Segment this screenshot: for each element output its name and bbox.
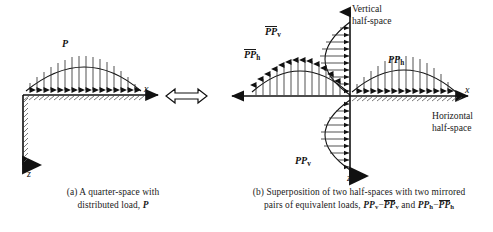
caption-a: (a) A quarter-space with distributed loa… (8, 186, 218, 211)
caption-b: (b) Superposition of two half-spaces wit… (228, 186, 490, 213)
panel-b-label-ppbar-v: PPv (265, 26, 281, 39)
panel-b-vertical-halfspace-label: Vertical half-space (352, 3, 391, 27)
panel-b-diagram (250, 12, 468, 176)
caption-a-line1: (a) A quarter-space with (8, 186, 218, 199)
panel-b-load-envelope-right-horizontal (352, 70, 456, 92)
panel-a-top-hatching (24, 96, 144, 100)
panel-b-load-envelope-left-horizontal (252, 71, 348, 92)
panel-b-label-pp-v: PPv (295, 155, 311, 168)
panel-b-right-hatching (352, 97, 462, 101)
panel-a-load-label: P (62, 38, 68, 49)
panel-b-label-pp-h: PPh (388, 54, 404, 67)
panel-b-load-envelope-lower-vertical (325, 100, 350, 170)
panel-a-z-axis-label: z (27, 168, 31, 179)
caption-b-line2: pairs of equivalent loads, PPv−PPv and P… (228, 199, 490, 214)
panel-b-horizontal-halfspace-label: Horizontal half-space (432, 110, 473, 134)
panel-a-diagram (23, 56, 158, 165)
figure-root: P x z PPv PPh PPh PPv x z Vertical half-… (0, 0, 493, 232)
panel-a-load-envelope (26, 67, 141, 91)
panel-a-x-axis-label: x (144, 83, 148, 94)
panel-b-x-axis-label: x (465, 84, 469, 95)
panel-a-side-hatching (24, 98, 28, 162)
caption-a-line2: distributed load, P (8, 199, 218, 212)
equivalence-arrow-icon (166, 89, 207, 103)
caption-b-line1: (b) Superposition of two half-spaces wit… (228, 186, 490, 199)
panel-b-z-axis-label: z (347, 172, 351, 183)
panel-a-load-arrows (30, 56, 135, 90)
panel-b-label-ppbar-h: PPh (244, 49, 260, 62)
